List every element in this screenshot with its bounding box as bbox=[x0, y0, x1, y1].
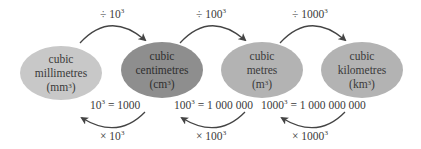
unit-mm3: cubic millimetres (mm3) bbox=[20, 46, 102, 100]
unit-line1: cubic bbox=[350, 49, 375, 63]
multiply-label-1: × 103 bbox=[100, 130, 124, 142]
unit-line1: cubic bbox=[49, 52, 74, 66]
multiply-arrow-3 bbox=[282, 112, 345, 128]
unit-line2: metres bbox=[247, 63, 278, 77]
multiply-arrow-2 bbox=[182, 112, 245, 128]
divide-arrow-1 bbox=[80, 26, 145, 43]
volume-conversion-diagram: cubic millimetres (mm3) cubic centimetre… bbox=[0, 0, 421, 149]
unit-m3: cubic metres (m3) bbox=[221, 42, 303, 98]
unit-km3: cubic kilometres (km3) bbox=[321, 42, 403, 98]
multiply-label-2: × 1003 bbox=[196, 130, 226, 142]
equality-3: 10003 = 1 000 000 000 bbox=[261, 99, 366, 111]
unit-abbr: (cm3) bbox=[149, 77, 174, 91]
divide-label-2: ÷ 1003 bbox=[196, 8, 226, 20]
unit-line2: millimetres bbox=[35, 66, 87, 80]
unit-line2: centimetres bbox=[135, 63, 188, 77]
unit-line1: cubic bbox=[250, 49, 275, 63]
divide-label-1: ÷ 103 bbox=[100, 8, 124, 20]
unit-line1: cubic bbox=[150, 49, 175, 63]
unit-abbr: (km3) bbox=[349, 77, 375, 91]
equality-1: 103 = 1000 bbox=[90, 99, 140, 111]
multiply-label-3: × 10003 bbox=[292, 130, 328, 142]
unit-abbr: (m3) bbox=[252, 77, 272, 91]
unit-cm3: cubic centimetres (cm3) bbox=[121, 42, 203, 98]
equality-2: 1003 = 1 000 000 bbox=[174, 99, 253, 111]
divide-arrow-2 bbox=[180, 26, 245, 43]
divide-label-3: ÷ 10003 bbox=[292, 8, 328, 20]
multiply-arrow-1 bbox=[82, 112, 145, 128]
divide-arrow-3 bbox=[280, 26, 345, 43]
unit-abbr: (mm3) bbox=[46, 80, 75, 94]
unit-line2: kilometres bbox=[338, 63, 387, 77]
